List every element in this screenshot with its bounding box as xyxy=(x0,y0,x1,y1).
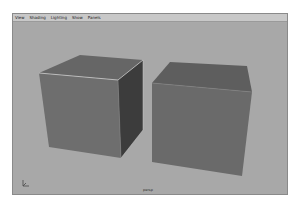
cube-left-front-face xyxy=(39,73,121,158)
cube-left[interactable] xyxy=(39,55,143,158)
menu-shading[interactable]: Shading xyxy=(30,14,46,22)
3d-viewport[interactable]: persp xyxy=(13,23,287,194)
cube-right-front-face xyxy=(152,83,252,176)
menu-panels[interactable]: Panels xyxy=(88,14,101,22)
menu-view[interactable]: View xyxy=(15,14,25,22)
axis-indicator-icon xyxy=(21,178,31,188)
menu-lighting[interactable]: Lighting xyxy=(51,14,67,22)
viewport-panel: View Shading Lighting Show Panels xyxy=(12,13,288,195)
scene-canvas[interactable] xyxy=(13,23,287,194)
cube-right[interactable] xyxy=(152,62,252,176)
panel-menubar: View Shading Lighting Show Panels xyxy=(13,14,287,22)
menu-show[interactable]: Show xyxy=(72,14,83,22)
camera-label: persp xyxy=(143,188,153,192)
